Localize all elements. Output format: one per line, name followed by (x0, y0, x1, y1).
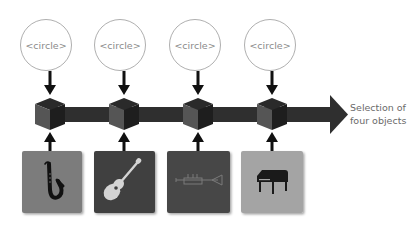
arrow-down-icon (192, 85, 204, 95)
connector-4 (257, 71, 287, 152)
connector-2 (109, 71, 139, 152)
object-trumpet (167, 151, 230, 213)
object-saxophone (22, 151, 82, 213)
cube-icon (35, 98, 65, 130)
circle-label: <circle> (174, 40, 215, 51)
circle-label: <circle> (99, 40, 140, 51)
circle-1: <circle> (21, 20, 72, 71)
circle-label: <circle> (249, 40, 290, 51)
arrow-down-icon (44, 85, 56, 95)
caption-line-1: Selection of (350, 101, 406, 114)
cube-icon (257, 98, 287, 130)
arrow-down-icon (118, 85, 130, 95)
arrow-down-icon (266, 85, 278, 95)
circle-2: <circle> (95, 20, 146, 71)
circle-4: <circle> (245, 20, 296, 71)
cube-icon (109, 98, 139, 130)
connector-1 (35, 71, 65, 152)
connector-3 (183, 71, 213, 152)
circle-label: <circle> (25, 40, 66, 51)
object-piano (241, 151, 303, 213)
circle-3: <circle> (170, 20, 221, 71)
diagram-caption: Selection of four objects (350, 101, 406, 127)
object-guitar (94, 151, 155, 213)
cube-icon (183, 98, 213, 130)
caption-line-2: four objects (350, 114, 406, 127)
